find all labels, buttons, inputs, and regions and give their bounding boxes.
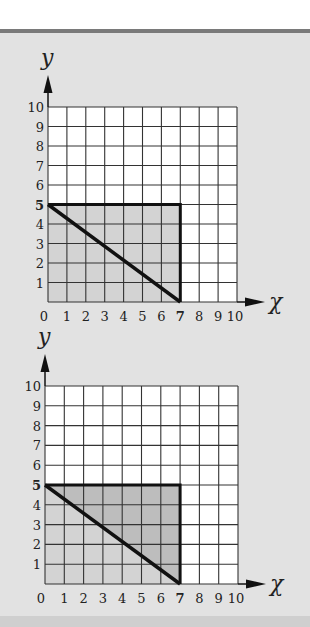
x-tick-label: 8 — [195, 591, 203, 606]
y-tick-label: 9 — [33, 399, 41, 414]
y-tick-label: 2 — [33, 537, 41, 552]
graph-2: yχ01234567891012345678910 — [0, 0, 310, 627]
x-tick-label: 6 — [157, 591, 165, 606]
y-tick-label: 7 — [33, 438, 41, 453]
y-tick-label: 10 — [24, 379, 41, 394]
x-tick-label: 7 — [176, 591, 185, 606]
y-tick-label: 6 — [33, 458, 41, 473]
x-tick-label: 9 — [215, 591, 223, 606]
x-tick-label: 1 — [60, 591, 68, 606]
x-tick-label: 3 — [99, 591, 107, 606]
y-tick-label: 3 — [33, 518, 41, 533]
x-tick-label: 10 — [228, 591, 245, 606]
y-tick-label: 4 — [33, 498, 41, 513]
x-axis-arrow-icon — [246, 580, 266, 589]
y-tick-label: 5 — [32, 478, 41, 493]
y-axis-label: y — [37, 324, 51, 349]
x-tick-label: 4 — [118, 591, 126, 606]
y-axis-arrow-icon — [41, 354, 50, 372]
x-tick-label: 2 — [79, 591, 87, 606]
x-tick-label: 5 — [137, 591, 145, 606]
y-tick-label: 8 — [33, 419, 41, 434]
x-axis-label: χ — [268, 571, 285, 596]
y-tick-label: 1 — [33, 557, 41, 572]
x-tick-label: 0 — [37, 591, 45, 606]
